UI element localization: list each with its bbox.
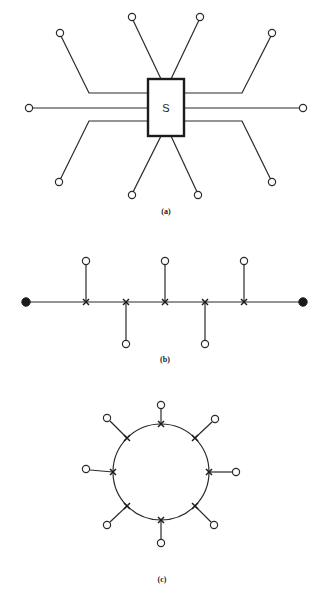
star-hub-label: S (162, 102, 169, 114)
ring-node (211, 415, 218, 422)
bus-node (122, 340, 129, 347)
bus-node (82, 257, 89, 264)
star-node (194, 191, 201, 198)
tap-x-icon (124, 503, 130, 509)
star-link-bottom-left (59, 121, 148, 182)
bus-node (161, 257, 168, 264)
star-link-top-right (184, 34, 272, 93)
star-node (56, 29, 63, 36)
star-node (128, 13, 135, 20)
ring-spoke (90, 470, 113, 472)
star-link-top-center-left (132, 18, 161, 79)
star-link-bottom-right (184, 121, 272, 182)
ring-taps (110, 421, 212, 523)
panel-a-star-topology: S (a) (25, 13, 306, 216)
bus-node (201, 340, 208, 347)
network-topology-figure: S (a) (0, 0, 325, 596)
star-node (268, 178, 275, 185)
ring-node (103, 521, 110, 528)
tap-x-icon (124, 435, 130, 441)
ring-node (82, 465, 89, 472)
panel-b-bus-topology: (b) (22, 257, 307, 364)
star-link-top-center-right (171, 18, 200, 79)
star-link-top-left (60, 34, 148, 93)
ring-node (157, 401, 164, 408)
star-node (128, 191, 135, 198)
tap-x-icon (192, 435, 198, 441)
star-link-bottom-center-right (171, 136, 198, 194)
ring-node (232, 468, 239, 475)
panel-c-ring-topology: (c) (82, 401, 239, 584)
bus-terminator-right (299, 298, 307, 306)
ring-node (157, 539, 164, 546)
bus-node (240, 257, 247, 264)
ring-node (210, 521, 217, 528)
tap-x-icon (192, 503, 198, 509)
bus-terminator-left (22, 298, 30, 306)
star-node (299, 104, 306, 111)
star-node (196, 13, 203, 20)
star-node (55, 178, 62, 185)
star-node (25, 104, 32, 111)
caption-b: (b) (160, 355, 170, 364)
ring-node (103, 414, 110, 421)
star-link-bottom-center-left (132, 136, 161, 194)
star-node (268, 29, 275, 36)
caption-c: (c) (158, 575, 167, 584)
caption-a: (a) (161, 207, 171, 216)
